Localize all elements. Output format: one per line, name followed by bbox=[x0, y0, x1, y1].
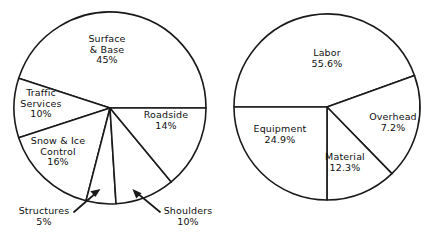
pie-chart-figure: Surface & Base 45% Traffic Services 10% … bbox=[0, 0, 427, 233]
label-shoulders-value: 10% bbox=[158, 217, 218, 228]
label-shoulders: Shoulders 10% bbox=[158, 206, 218, 227]
label-equipment-value: 24.9% bbox=[240, 135, 320, 146]
label-roadside-value: 14% bbox=[133, 121, 199, 132]
label-surface-base-value: 45% bbox=[64, 55, 150, 66]
label-structures-value: 5% bbox=[13, 217, 75, 228]
label-overhead-value: 7.2% bbox=[360, 123, 426, 134]
label-surface-base: Surface & Base 45% bbox=[64, 34, 150, 66]
label-labor-value: 55.6% bbox=[295, 59, 359, 70]
label-roadside: Roadside 14% bbox=[133, 110, 199, 131]
label-equipment: Equipment 24.9% bbox=[240, 124, 320, 145]
label-material: Material 12.3% bbox=[312, 152, 378, 173]
label-labor: Labor 55.6% bbox=[295, 48, 359, 69]
label-snow-ice-control-value: 16% bbox=[18, 157, 98, 168]
label-traffic-services: Traffic Services 10% bbox=[8, 88, 74, 120]
label-traffic-services-value: 10% bbox=[8, 109, 74, 120]
label-overhead: Overhead 7.2% bbox=[360, 112, 426, 133]
label-structures: Structures 5% bbox=[13, 206, 75, 227]
label-snow-ice-control: Snow & Ice Control 16% bbox=[18, 136, 98, 168]
label-material-value: 12.3% bbox=[312, 163, 378, 174]
